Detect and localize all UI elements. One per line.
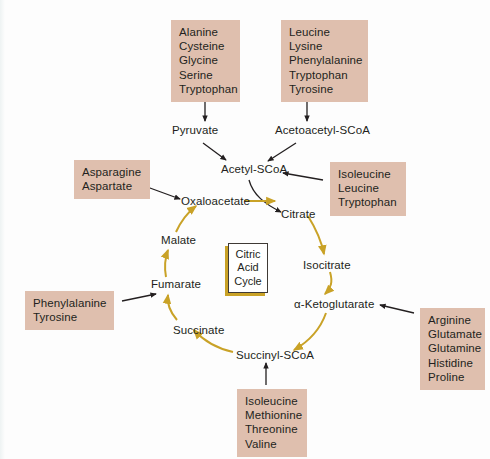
amino-acid-box-to-acetoacetyl-scoa[interactable]: Leucine Lysine Phenylalanine Tryptophan …: [281, 20, 368, 102]
metabolite-label-pyruvate: Pyruvate: [172, 124, 218, 137]
metabolite-label-succinate: Succinate: [173, 324, 224, 337]
diagram-canvas: Alanine Cysteine Glycine Serine Tryptoph…: [0, 0, 490, 459]
metabolite-label-acetyl-scoa: Acetyl-SCoA: [221, 163, 287, 176]
arrow-acetyl-scoa-to-citrate: [249, 180, 281, 212]
amino-acid-box-to-fumarate[interactable]: Phenylalanine Tyrosine: [25, 291, 114, 330]
amino-acid-box-to-succinyl-scoa[interactable]: Isoleucine Methionine Threonine Valine: [237, 389, 307, 457]
cycle-arrow-alpha-ketoglutarate-to-succinyl-scoa: [294, 313, 326, 350]
metabolite-label-succinyl-scoa: Succinyl-SCoA: [236, 349, 314, 362]
cycle-arrow-succinate-to-fumarate: [168, 295, 177, 320]
cycle-plate-line-2: Acid: [237, 261, 258, 275]
amino-acid-box-to-alpha-ketoglutarate[interactable]: Arginine Glutamate Glutamine Histidine P…: [420, 308, 485, 390]
cycle-arrow-citrate-to-isocitrate: [308, 216, 324, 254]
metabolite-label-fumarate: Fumarate: [151, 278, 201, 291]
arrow-aabox-to-fumarate: [122, 294, 156, 301]
arrow-aabox-to-acetyl-scoa: [283, 173, 323, 180]
metabolite-label-acetoacetyl-scoa: Acetoacetyl-SCoA: [275, 124, 370, 137]
citric-acid-cycle-plate: Citric Acid Cycle: [228, 243, 268, 293]
metabolite-label-isocitrate: Isocitrate: [303, 259, 351, 272]
cycle-arrow-malate-to-oxaloacetate: [176, 206, 196, 232]
cycle-arrow-fumarate-to-malate: [165, 250, 168, 277]
cycle-plate-line-3: Cycle: [234, 275, 262, 289]
cycle-arrow-isocitrate-to-alpha-ketoglutarate: [325, 272, 331, 294]
metabolite-label-alpha-ketoglutarate: α-Ketoglutarate: [294, 298, 374, 311]
arrow-pyruvate-to-acetyl-scoa: [203, 143, 226, 160]
amino-acid-box-to-acetyl-scoa[interactable]: Isoleucine Leucine Tryptophan: [330, 162, 406, 216]
arrow-aabox-to-alpha-ketoglutarate: [380, 305, 414, 313]
metabolite-label-oxaloacetate: Oxaloacetate: [181, 195, 250, 208]
amino-acid-box-to-oxaloacetate[interactable]: Asparagine Aspartate: [74, 160, 150, 199]
arrow-acetoacetyl-scoa-to-acetyl-scoa: [268, 143, 296, 161]
metabolite-label-citrate: Citrate: [281, 208, 316, 221]
amino-acid-box-to-pyruvate[interactable]: Alanine Cysteine Glycine Serine Tryptoph…: [171, 20, 240, 102]
cycle-plate-line-1: Citric: [235, 248, 260, 262]
metabolite-label-malate: Malate: [161, 234, 196, 247]
